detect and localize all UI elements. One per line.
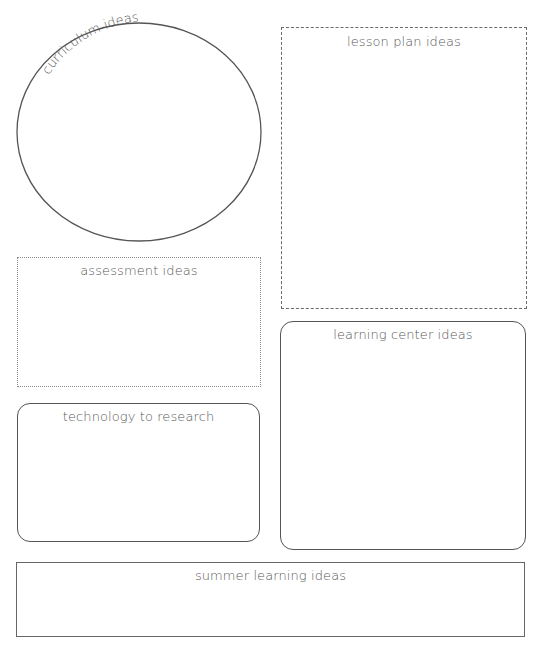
svg-text:curriculum ideas: curriculum ideas: [39, 9, 140, 76]
technology-to-research-label: technology to research: [18, 409, 259, 424]
assessment-ideas-section[interactable]: assessment ideas: [17, 257, 261, 387]
technology-to-research-section[interactable]: technology to research: [17, 403, 260, 542]
assessment-ideas-label: assessment ideas: [18, 263, 260, 278]
lesson-plan-ideas-label: lesson plan ideas: [282, 34, 526, 49]
curriculum-ideas-label: curriculum ideas: [39, 9, 140, 76]
summer-learning-ideas-label: summer learning ideas: [17, 568, 524, 583]
lesson-plan-ideas-section[interactable]: lesson plan ideas: [281, 27, 527, 309]
curriculum-ideas-section[interactable]: curriculum ideas: [0, 0, 280, 250]
summer-learning-ideas-section[interactable]: summer learning ideas: [16, 562, 525, 637]
learning-center-ideas-section[interactable]: learning center ideas: [280, 321, 526, 550]
learning-center-ideas-label: learning center ideas: [281, 327, 525, 342]
